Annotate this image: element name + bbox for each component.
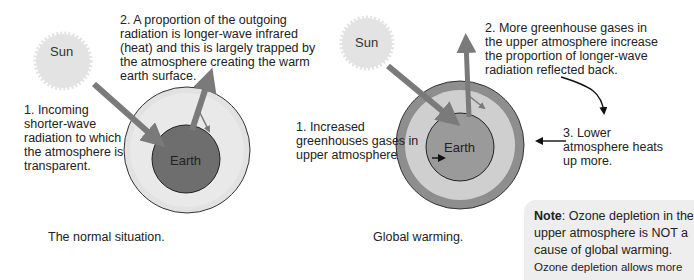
sun-label-right: Sun bbox=[355, 35, 378, 50]
sun-left-icon bbox=[36, 34, 90, 88]
earth-label-right: Earth bbox=[444, 140, 475, 155]
curved-pointer-arrow bbox=[561, 77, 604, 113]
sun-label-left: Sun bbox=[50, 44, 73, 59]
earth-label-left: Earth bbox=[170, 153, 201, 168]
caption-global-warming: Global warming. bbox=[373, 230, 463, 244]
caption-normal-situation: The normal situation. bbox=[48, 230, 165, 244]
note-label: Note bbox=[534, 209, 562, 223]
outgoing-radiation-arrow-right bbox=[466, 42, 469, 117]
ozone-note-box: Note: Ozone depletion in the upper atmos… bbox=[524, 200, 694, 280]
